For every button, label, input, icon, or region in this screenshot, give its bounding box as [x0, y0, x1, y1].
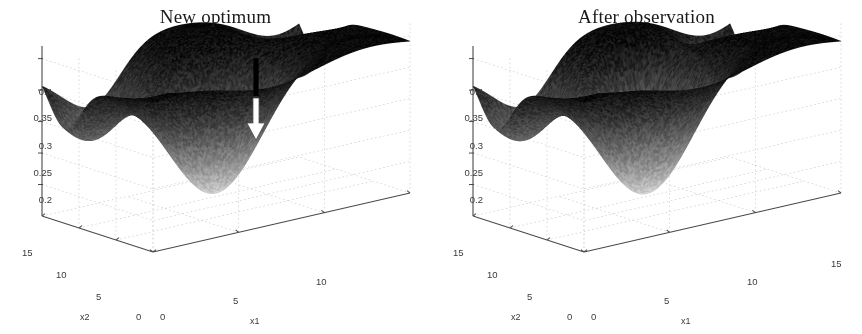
panel-title-left: New optimum	[0, 6, 431, 28]
x2tick-label: 15	[22, 247, 33, 258]
surface-plot-left	[0, 0, 431, 334]
ztick-label: 0.25	[441, 167, 483, 178]
ztick-label: 0.35	[10, 112, 52, 123]
x1tick-label: 10	[316, 276, 327, 287]
ztick-label: 0.2	[16, 194, 52, 205]
x2tick-label: 5	[96, 291, 101, 302]
x2tick-label: 0	[567, 311, 572, 322]
x2tick-label: 5	[527, 291, 532, 302]
ztick-label: 0.3	[447, 140, 483, 151]
x2tick-label: 10	[487, 269, 498, 280]
axis-title-x1: x1	[250, 316, 260, 326]
ztick-label: 0.25	[10, 167, 52, 178]
x2tick-label: 15	[453, 247, 464, 258]
x2tick-label: 0	[136, 311, 141, 322]
surface-panel-left: New optimum 0.4 0.35 0.3 0.25 0.2 15 10 …	[0, 0, 431, 334]
surface-panel-right: After observation 0.4 0.35 0.3 0.25 0.2 …	[431, 0, 862, 334]
ztick-label: 0.4	[16, 86, 52, 97]
axis-title-x2: x2	[511, 312, 521, 322]
figure-container: New optimum 0.4 0.35 0.3 0.25 0.2 15 10 …	[0, 0, 862, 334]
x1tick-label: 0	[591, 311, 596, 322]
ztick-label: 0.35	[441, 112, 483, 123]
panel-title-right: After observation	[431, 6, 862, 28]
x1tick-label: 5	[664, 295, 669, 306]
x1tick-label: 10	[747, 276, 758, 287]
ztick-label: 0.4	[447, 86, 483, 97]
x1tick-label: 0	[160, 311, 165, 322]
ztick-label: 0.3	[16, 140, 52, 151]
surface-plot-right	[431, 0, 862, 334]
ztick-label: 0.2	[447, 194, 483, 205]
axis-title-x2: x2	[80, 312, 90, 322]
x2tick-label: 10	[56, 269, 67, 280]
x1tick-label: 5	[233, 295, 238, 306]
axis-title-x1: x1	[681, 316, 691, 326]
x1tick-label: 15	[831, 258, 842, 269]
